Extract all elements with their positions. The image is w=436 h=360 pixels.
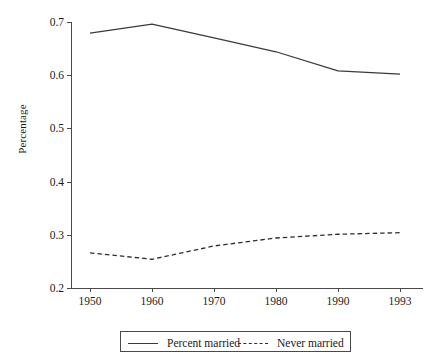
legend-item-never-married: Never married xyxy=(238,332,344,353)
legend-label: Percent married xyxy=(158,337,240,349)
legend-swatch-dashed-line-icon xyxy=(238,338,268,348)
series-line-percent-married xyxy=(90,24,400,74)
legend: Percent married Never married xyxy=(120,331,351,352)
axis-lines xyxy=(67,22,423,292)
plot-area xyxy=(0,0,436,360)
legend-item-percent-married: Percent married xyxy=(128,332,240,353)
legend-swatch-solid-line-icon xyxy=(128,338,158,348)
chart-figure: Percentage 0.20.30.40.50.60.7 1950196019… xyxy=(0,0,436,360)
data-series-group xyxy=(90,24,400,259)
legend-label: Never married xyxy=(268,337,344,349)
series-line-never-married xyxy=(90,233,400,260)
